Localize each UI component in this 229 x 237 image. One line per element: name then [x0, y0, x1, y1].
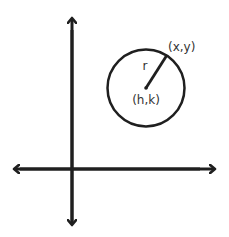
center-label: (h,k) [132, 93, 160, 107]
radius-label: r [143, 59, 148, 73]
point-label: (x,y) [168, 40, 195, 54]
center-point [144, 86, 148, 90]
radius-line [146, 55, 167, 88]
circle-diagram: r (x,y) (h,k) [0, 0, 229, 237]
